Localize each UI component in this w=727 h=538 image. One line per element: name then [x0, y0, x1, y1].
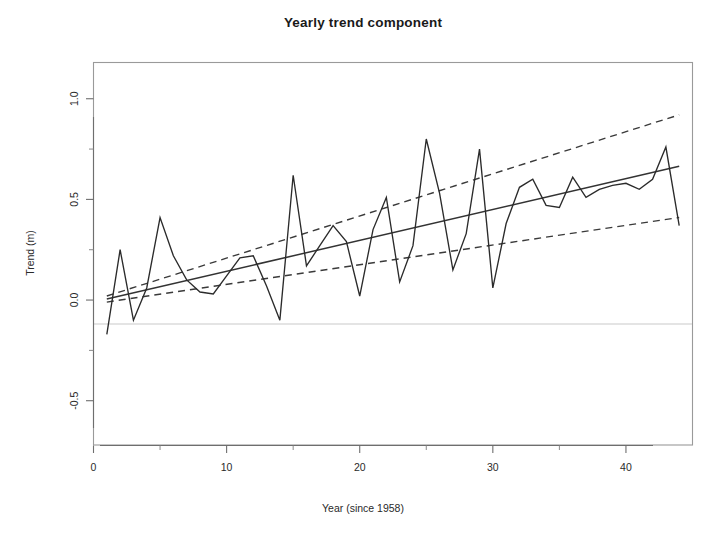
- y-tick-label: 0.0: [68, 293, 80, 308]
- x-tick-label: 20: [354, 461, 366, 473]
- y-tick-label: 0.5: [68, 192, 80, 207]
- figure-background: [0, 0, 727, 538]
- chart-figure: Yearly trend component -0.50.00.51.0 Tre…: [0, 0, 727, 538]
- chart-title: Yearly trend component: [284, 15, 442, 30]
- x-tick-label: 10: [221, 461, 233, 473]
- x-tick-label: 40: [620, 461, 632, 473]
- x-axis-title: Year (since 1958): [322, 502, 404, 514]
- trend-line-chart: Yearly trend component -0.50.00.51.0 Tre…: [0, 0, 727, 538]
- y-tick-label: -0.5: [68, 392, 80, 410]
- x-tick-label: 0: [91, 461, 97, 473]
- x-tick-label: 30: [487, 461, 499, 473]
- y-axis-title: Trend (m): [24, 230, 36, 276]
- y-tick-label: 1.0: [68, 91, 80, 106]
